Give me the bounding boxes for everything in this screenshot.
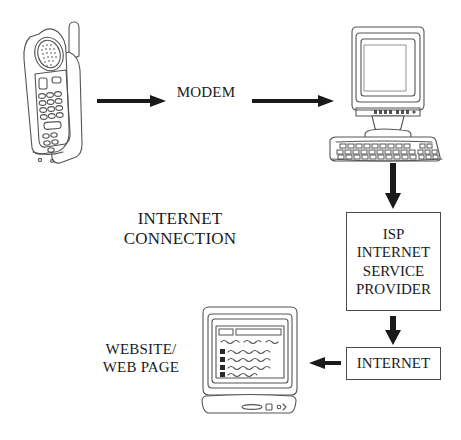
diagram-canvas: .ln { fill:none; stroke:#555; stroke-wid… [0,0,461,440]
website-web-page-label: WEBSITE/ WEB PAGE [78,341,204,376]
modem-label: MODEM [168,84,244,102]
arrow-phone-to-modem-shape [97,95,166,107]
cordless-telephone-handset-illustration [24,22,82,163]
internet-box: INTERNET [346,347,441,380]
arrow-internet-to-webpage-shape [309,357,341,369]
arrow-computer-to-isp-shape [385,163,401,209]
webpage-monitor-illustration [202,307,297,413]
desktop-computer-illustration [330,27,442,161]
internet-connection-label: INTERNET CONNECTION [80,209,280,249]
arrow-modem-to-computer-shape [252,95,334,107]
arrow-isp-to-internet-shape [385,316,401,345]
isp-box: ISP INTERNET SERVICE PROVIDER [346,212,441,311]
